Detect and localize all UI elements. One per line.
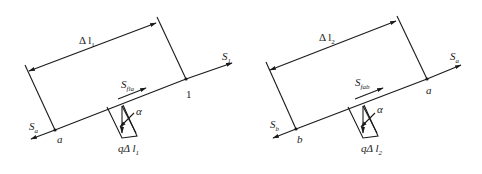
point-end: [184, 77, 187, 80]
end-point-label: a: [426, 84, 432, 96]
start-force-label: Sa: [29, 120, 39, 135]
end-force-arrow: [186, 63, 232, 79]
friction-force-label: Sfab: [355, 76, 370, 91]
diagram-left: Δ l1 S1 Sa Sfla a 1 α qΔ l1: [25, 17, 232, 157]
diagram-right: Δ l2 Sa Sb Sfab b a α qΔ l2: [266, 16, 461, 157]
end-force-label: S1: [222, 50, 231, 65]
belt-element-diagrams: Δ l1 S1 Sa Sfla a 1 α qΔ l1 Δ l2 Sa Sb S…: [0, 0, 482, 174]
angle-label: α: [377, 103, 383, 115]
point-start: [294, 127, 297, 130]
load-label: qΔ l1: [118, 142, 139, 157]
extension-line-right: [157, 17, 186, 79]
load-label: qΔ l2: [361, 142, 383, 157]
extension-line-right: [397, 16, 427, 79]
start-point-label: a: [57, 133, 63, 145]
friction-force-label: Sfla: [121, 78, 134, 93]
load-arrow-diagonal: [122, 106, 136, 133]
angle-label: α: [136, 105, 142, 117]
length-label: Δ l1: [79, 34, 95, 49]
start-point-label: b: [297, 133, 303, 145]
end-point-label: 1: [186, 88, 192, 100]
load-arrow-diagonal: [363, 106, 377, 133]
length-label: Δ l2: [319, 31, 335, 46]
point-start: [53, 128, 56, 131]
point-end: [425, 77, 428, 80]
end-force-arrow: [427, 65, 461, 79]
start-force-label: Sb: [270, 118, 280, 133]
end-force-label: Sa: [450, 50, 460, 65]
